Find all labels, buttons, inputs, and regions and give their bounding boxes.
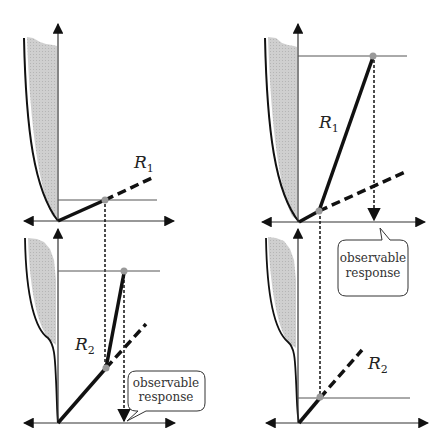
r2-solid-segment [299,398,320,423]
observable-response-callout: observable response [338,228,408,296]
r1-label: R1 [133,152,154,175]
distribution-shaded-region [28,238,56,345]
callout-line-1: observable [133,376,199,390]
r2-solid-segment [58,368,106,423]
callout-line-1: observable [340,251,406,265]
distribution-shaded-region [268,237,296,348]
intersection-marker [102,197,109,204]
observable-response-callout: observable response [127,371,205,421]
r1-solid-segment [58,200,105,221]
r2-label: R2 [74,334,95,357]
panel-top-left: R1 [24,24,174,221]
upper-marker [121,268,128,275]
response-diagram: R1 R1 observable response [0,0,448,442]
intersection-marker [317,394,324,401]
lower-marker [316,208,323,215]
r2-dashed-segment [320,350,362,398]
r1-steep-segment [319,57,373,211]
callout-line-2: response [139,390,194,404]
r1-dashed-segment [105,177,154,200]
callout-line-2: response [346,266,401,280]
r1-label: R1 [318,112,339,135]
panel-bottom-left: R2 observable response [24,229,205,423]
r2-label: R2 [367,353,388,376]
lower-marker [103,365,110,372]
upper-marker [370,53,377,60]
